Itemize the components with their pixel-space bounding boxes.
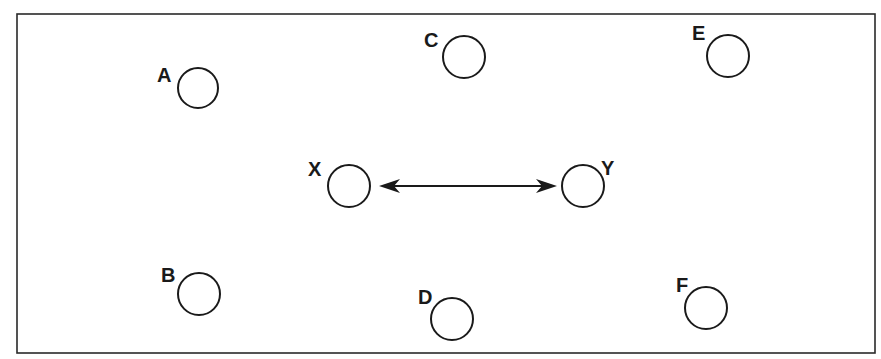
circle-icon xyxy=(431,298,473,340)
circle-icon xyxy=(685,287,727,329)
node-x: X xyxy=(308,158,370,207)
node-label: A xyxy=(157,64,171,86)
node-f: F xyxy=(676,274,727,329)
node-b: B xyxy=(161,264,220,315)
node-d: D xyxy=(418,286,473,340)
node-label: B xyxy=(161,264,175,286)
node-label: Y xyxy=(601,157,615,179)
circle-icon xyxy=(562,165,604,207)
circle-icon xyxy=(707,35,749,77)
node-label: E xyxy=(692,22,705,44)
node-a: A xyxy=(157,64,218,108)
node-label: D xyxy=(418,286,432,308)
node-label: X xyxy=(308,158,322,180)
node-label: C xyxy=(424,29,438,51)
circle-icon xyxy=(443,36,485,78)
diagram-canvas: A B C D E F X Y xyxy=(0,0,881,359)
circle-icon xyxy=(178,68,218,108)
double-arrow-x-y xyxy=(379,179,557,193)
node-label: F xyxy=(676,274,688,296)
node-y: Y xyxy=(562,157,615,207)
node-c: C xyxy=(424,29,485,78)
node-e: E xyxy=(692,22,749,77)
circle-icon xyxy=(328,165,370,207)
circle-icon xyxy=(178,273,220,315)
